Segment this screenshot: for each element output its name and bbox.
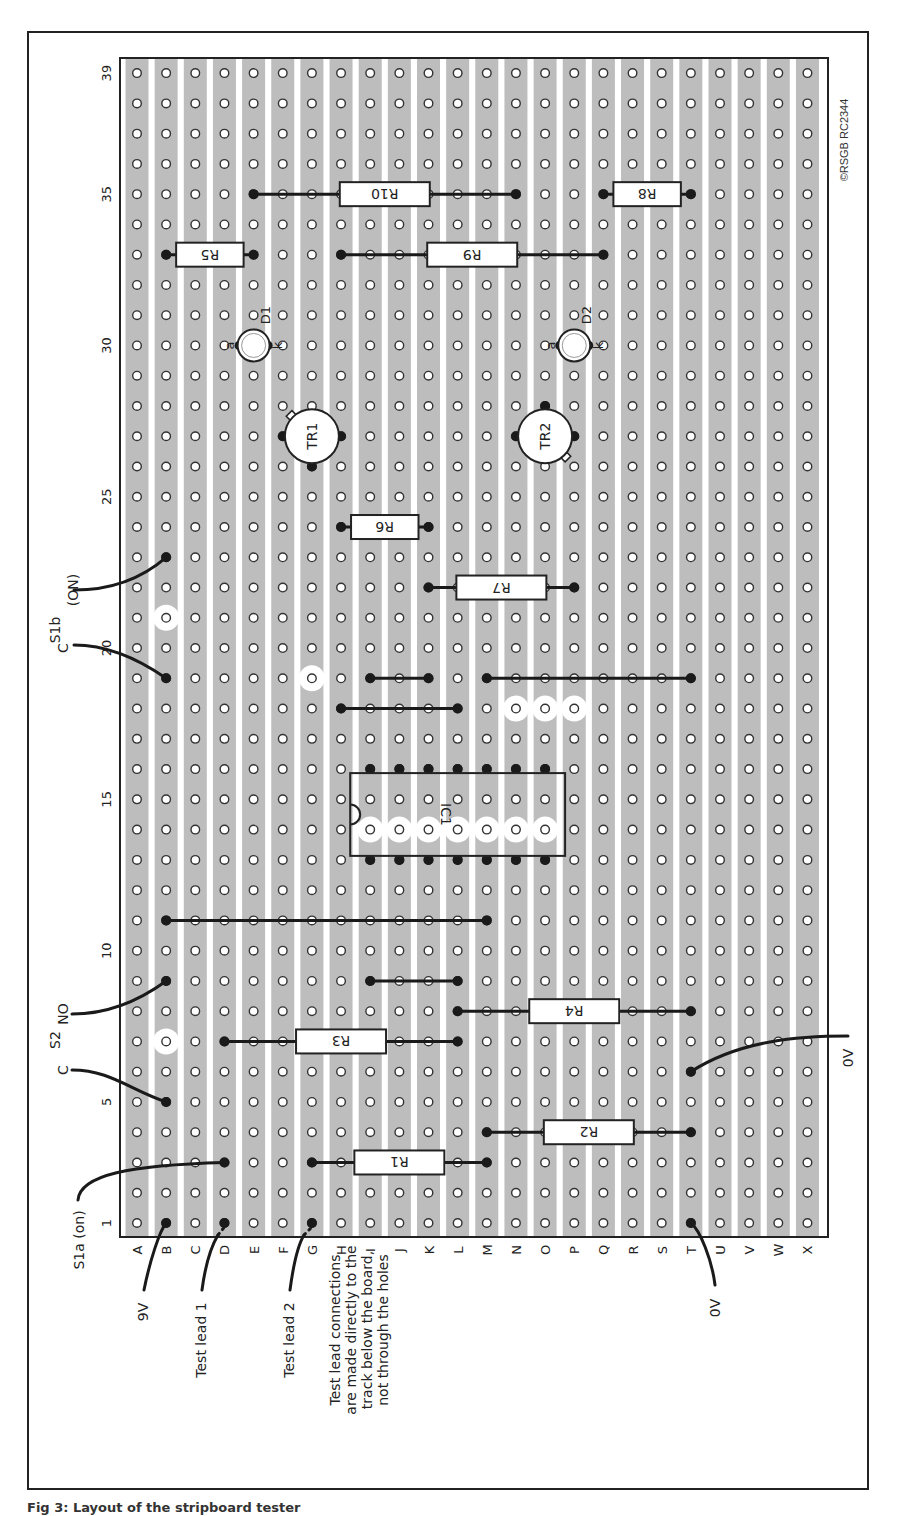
solder-joint: [598, 189, 608, 199]
hole: [133, 371, 142, 380]
hole: [745, 765, 754, 774]
hole: [803, 492, 812, 501]
solder-joint: [219, 1218, 229, 1228]
hole: [453, 1219, 462, 1228]
hole: [716, 1158, 725, 1167]
hole: [395, 492, 404, 501]
solder-joint: [424, 673, 434, 683]
hole: [541, 220, 550, 229]
hole: [687, 856, 696, 865]
hole: [133, 160, 142, 169]
hole: [803, 704, 812, 713]
hole: [366, 129, 375, 138]
hole: [716, 99, 725, 108]
hole: [162, 704, 171, 713]
hole: [716, 644, 725, 653]
solder-joint: [482, 673, 492, 683]
hole: [512, 614, 521, 623]
hole: [628, 946, 637, 955]
hole: [162, 795, 171, 804]
hole: [191, 1007, 200, 1016]
hole: [803, 462, 812, 471]
hole: [657, 69, 666, 78]
hole: [424, 160, 433, 169]
hole: [133, 69, 142, 78]
hole: [249, 765, 258, 774]
hole: [803, 886, 812, 895]
resistor-label: R6: [375, 519, 394, 535]
column-label-T: T: [684, 1246, 699, 1255]
hole: [541, 1158, 550, 1167]
hole: [483, 220, 492, 229]
hole: [599, 856, 608, 865]
hole: [366, 614, 375, 623]
hole: [395, 1128, 404, 1137]
hole: [191, 1219, 200, 1228]
hole: [483, 341, 492, 350]
hole: [133, 99, 142, 108]
hole: [453, 795, 462, 804]
hole: [803, 432, 812, 441]
hole: [337, 765, 346, 774]
hole: [424, 644, 433, 653]
hole: [745, 795, 754, 804]
hole: [249, 462, 258, 471]
hole: [162, 765, 171, 774]
hole: [424, 129, 433, 138]
stripboard-diagram: ABCDEFGHIJKLMNOPQRSTUVWX 151015202530353…: [0, 0, 903, 1516]
hole: [774, 916, 783, 925]
hole: [453, 160, 462, 169]
figure-caption: Fig 3: Layout of the stripboard tester: [27, 1500, 301, 1515]
hole: [570, 523, 579, 532]
hole: [774, 977, 783, 986]
hole: [133, 583, 142, 592]
column-label-K: K: [422, 1245, 437, 1254]
hole: [716, 220, 725, 229]
hole: [716, 190, 725, 199]
hole: [191, 614, 200, 623]
hole: [599, 1219, 608, 1228]
hole: [628, 523, 637, 532]
hole: [278, 977, 287, 986]
hole: [803, 795, 812, 804]
hole: [716, 795, 725, 804]
hole: [803, 674, 812, 683]
hole: [599, 1067, 608, 1076]
hole: [278, 129, 287, 138]
hole: [191, 1037, 200, 1046]
solder-joint: [482, 915, 492, 925]
hole: [599, 1188, 608, 1197]
hole: [687, 341, 696, 350]
hole: [249, 69, 258, 78]
hole: [308, 160, 317, 169]
hole: [453, 553, 462, 562]
hole: [716, 946, 725, 955]
hole: [395, 462, 404, 471]
transistor-label: TR2: [537, 423, 553, 451]
hole: [278, 1098, 287, 1107]
hole: [541, 886, 550, 895]
ic-label: IC1: [438, 803, 454, 826]
column-label-Q: Q: [596, 1245, 611, 1255]
hole: [483, 886, 492, 895]
hole: [599, 735, 608, 744]
hole: [366, 341, 375, 350]
hole: [774, 250, 783, 259]
hole: [308, 129, 317, 138]
hole: [191, 99, 200, 108]
hole: [249, 644, 258, 653]
hole: [628, 311, 637, 320]
hole: [308, 856, 317, 865]
hole: [803, 977, 812, 986]
hole: [220, 614, 229, 623]
hole: [716, 69, 725, 78]
hole: [541, 614, 550, 623]
hole: [687, 99, 696, 108]
hole: [745, 402, 754, 411]
hole: [745, 614, 754, 623]
hole: [220, 825, 229, 834]
hole: [774, 432, 783, 441]
hole: [278, 220, 287, 229]
hole: [337, 1128, 346, 1137]
column-label-A: A: [130, 1245, 145, 1254]
